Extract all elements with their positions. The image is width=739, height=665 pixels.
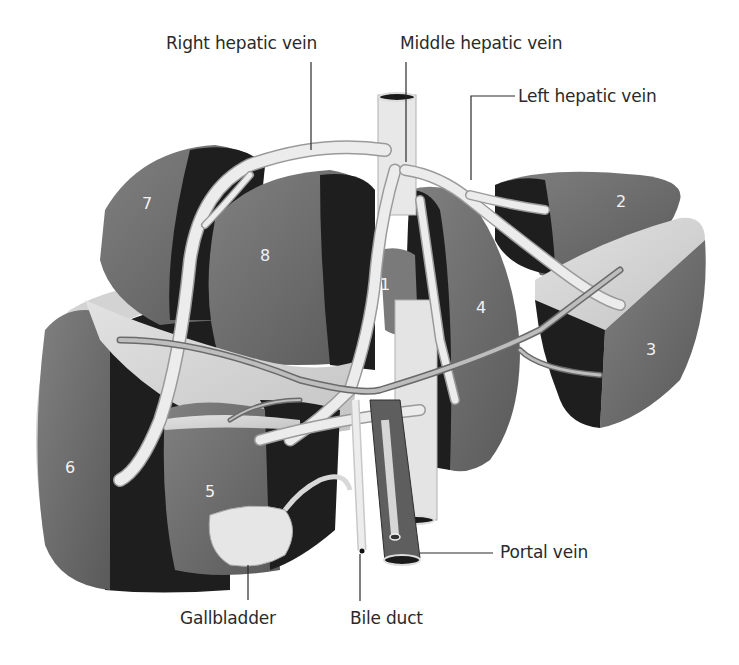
label-portal-vein: Portal vein: [500, 542, 588, 562]
segment-number-2: 2: [616, 192, 626, 211]
segment-number-6: 6: [65, 458, 75, 477]
segment-number-8: 8: [260, 246, 270, 265]
label-left-hepatic-vein: Left hepatic vein: [518, 86, 657, 106]
segment-number-5: 5: [205, 482, 215, 501]
liver-segments-diagram: 1 2 3 4 5 6 7 8 Right hepatic vein Middl…: [0, 0, 739, 665]
segment-number-7: 7: [142, 194, 152, 213]
segment-number-4: 4: [476, 298, 486, 317]
label-gallbladder: Gallbladder: [180, 608, 276, 628]
label-middle-hepatic-vein: Middle hepatic vein: [400, 33, 562, 53]
label-right-hepatic-vein: Right hepatic vein: [166, 33, 317, 53]
label-bile-duct: Bile duct: [350, 608, 423, 628]
segment-number-3: 3: [646, 340, 656, 359]
segment-number-1: 1: [380, 275, 390, 294]
